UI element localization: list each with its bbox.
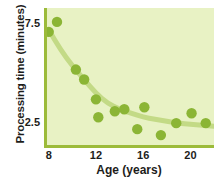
data-point [91, 94, 101, 104]
data-point [171, 118, 181, 128]
plot-canvas [44, 8, 214, 147]
x-axis-line [44, 145, 214, 148]
data-point [139, 102, 149, 112]
data-point [71, 64, 81, 74]
x-axis-title: Age (years) [44, 163, 214, 177]
data-point [156, 130, 166, 140]
y-axis-title: Processing time (minutes) [14, 2, 26, 146]
x-tick-label: 12 [84, 149, 108, 161]
data-point [52, 17, 62, 27]
data-point [186, 108, 196, 118]
y-axis-line [44, 8, 47, 147]
x-tick-label: 20 [178, 149, 202, 161]
scatter-plot-figure: 7.52.5 8121620 Processing time (minutes)… [0, 0, 214, 186]
x-tick-label: 8 [37, 149, 61, 161]
data-point [132, 124, 142, 134]
plot-area [44, 8, 214, 147]
data-point [119, 104, 129, 114]
data-point [201, 118, 211, 128]
data-point [110, 106, 120, 116]
x-tick-label: 16 [131, 149, 155, 161]
data-point [79, 74, 89, 84]
data-point [93, 112, 103, 122]
